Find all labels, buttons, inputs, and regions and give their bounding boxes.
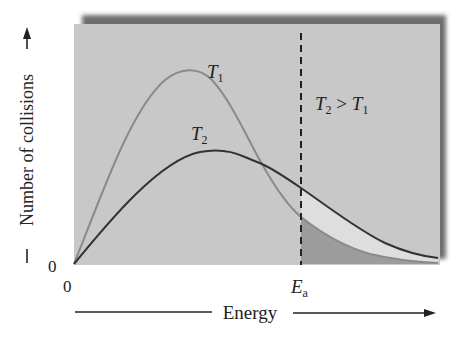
x-origin-label: 0 <box>63 277 72 296</box>
y-axis-label-group: Number of collisions <box>17 27 37 263</box>
plot-panel <box>74 24 440 265</box>
t2-greater-than-t1-annotation: T2 > T1 <box>315 93 368 117</box>
x-axis-arrowhead-icon <box>424 309 436 317</box>
y-axis-arrowhead-icon <box>23 27 31 39</box>
x-axis-label: Energy <box>223 302 278 323</box>
ea-label: Ea <box>290 276 309 300</box>
maxwell-boltzmann-chart: T1 T2 T2 > T1 0 0 Ea Energy Number of co… <box>0 0 463 340</box>
y-axis-label: Number of collisions <box>17 74 37 226</box>
y-origin-label: 0 <box>48 257 57 276</box>
